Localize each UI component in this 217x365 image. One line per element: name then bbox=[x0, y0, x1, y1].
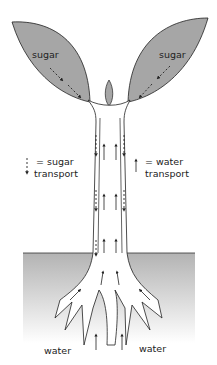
leaf-left-label: sugar bbox=[32, 49, 59, 60]
left-leaf bbox=[12, 22, 90, 102]
root-left-label: water bbox=[44, 345, 71, 356]
bud bbox=[105, 80, 113, 106]
leaf-right-label: sugar bbox=[159, 49, 186, 60]
right-leaf bbox=[128, 18, 208, 102]
root-right-label: water bbox=[139, 343, 166, 354]
legend-water-line1: = water bbox=[145, 156, 183, 167]
legend-sugar-line2: transport bbox=[34, 168, 78, 179]
legend-sugar-line1: = sugar bbox=[36, 156, 74, 167]
legend-water-line2: transport bbox=[145, 168, 189, 179]
